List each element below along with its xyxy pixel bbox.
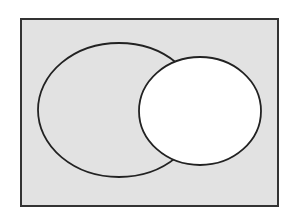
set-b-circle [139, 57, 261, 165]
venn-diagram [0, 0, 300, 223]
